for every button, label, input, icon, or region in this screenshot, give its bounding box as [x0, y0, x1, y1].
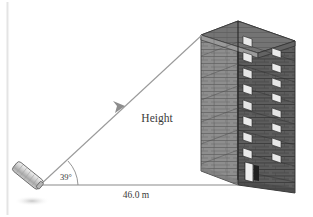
distance-label: 46.0 m	[123, 190, 150, 200]
page-edge-artifact	[7, 2, 9, 215]
entrance-shadow	[254, 165, 259, 181]
angle-label: 39°	[60, 172, 72, 182]
building	[201, 21, 295, 193]
angle-of-elevation-figure: Height 46.0 m 39°	[0, 0, 313, 217]
entrance-door	[245, 162, 253, 182]
figure-container: Height 46.0 m 39°	[0, 0, 313, 217]
page-edge-artifact-soft	[8, 2, 9, 215]
height-label: Height	[141, 112, 173, 125]
device-shadow	[14, 196, 50, 206]
